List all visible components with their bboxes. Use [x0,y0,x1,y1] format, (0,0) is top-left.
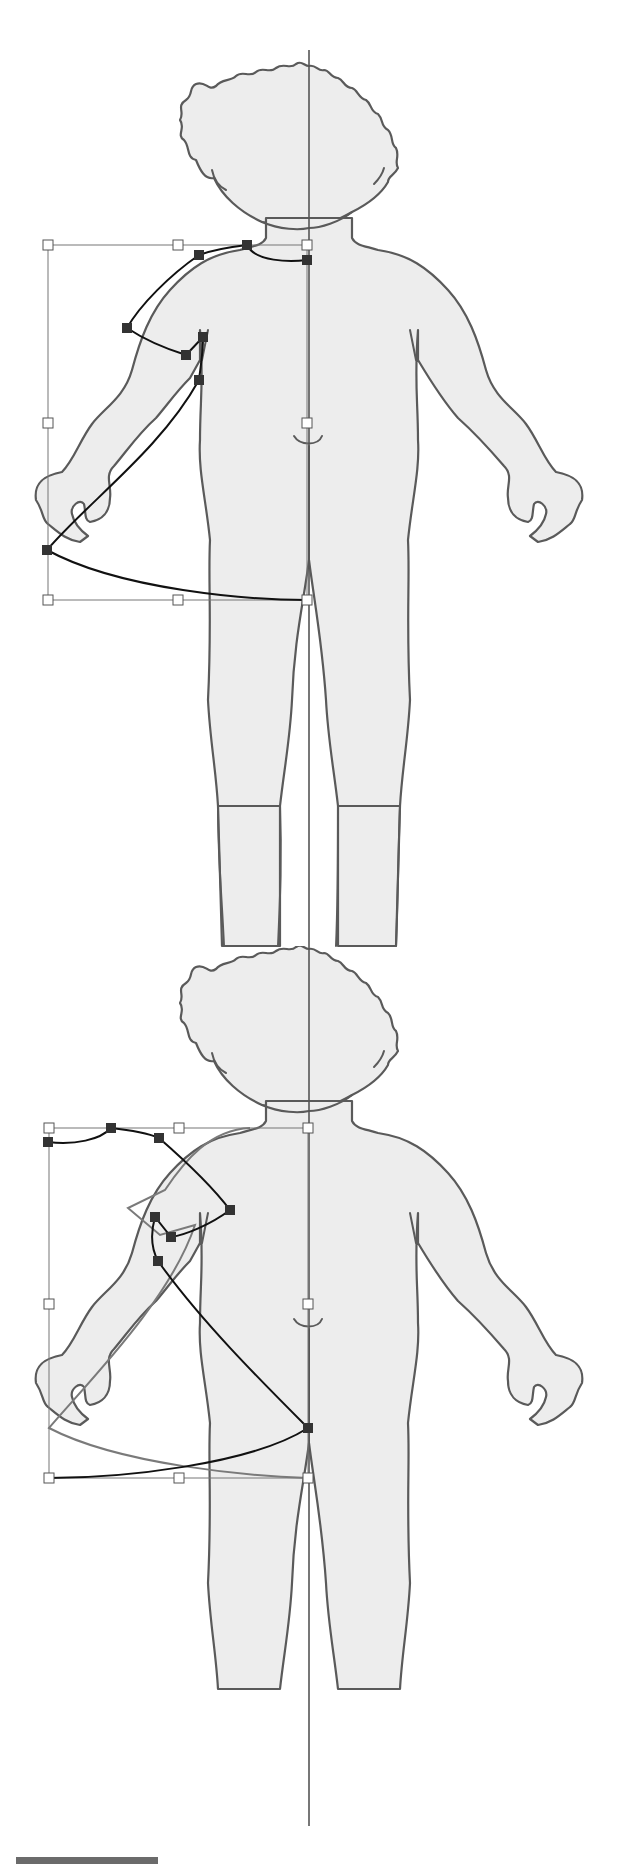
anchor-point[interactable] [153,1256,163,1266]
resize-handle[interactable] [302,240,312,250]
resize-handle[interactable] [174,1473,184,1483]
anchor-point[interactable] [42,545,52,555]
anchor-point[interactable] [150,1212,160,1222]
resize-handle[interactable] [44,1299,54,1309]
resize-handle[interactable] [173,595,183,605]
anchor-point[interactable] [194,250,204,260]
resize-handle[interactable] [303,1299,313,1309]
resize-handle[interactable] [43,418,53,428]
resize-handle[interactable] [44,1473,54,1483]
anchor-point[interactable] [43,1137,53,1147]
resize-handle[interactable] [44,1123,54,1133]
anchor-point[interactable] [166,1232,176,1242]
resize-handle[interactable] [173,240,183,250]
resize-handle[interactable] [302,595,312,605]
anchor-point[interactable] [242,240,252,250]
anchor-point[interactable] [225,1205,235,1215]
resize-handle[interactable] [174,1123,184,1133]
resize-handle[interactable] [43,595,53,605]
anchor-point[interactable] [302,255,312,265]
anchor-point[interactable] [122,323,132,333]
footer-bar [16,1857,158,1864]
anchor-point[interactable] [154,1133,164,1143]
anchor-point[interactable] [303,1423,313,1433]
anchor-point[interactable] [194,375,204,385]
anchor-point[interactable] [198,332,208,342]
resize-handle[interactable] [303,1473,313,1483]
panel-gap [0,806,628,946]
anchor-point[interactable] [181,350,191,360]
anchor-point[interactable] [106,1123,116,1133]
resize-handle[interactable] [302,418,312,428]
resize-handle[interactable] [43,240,53,250]
resize-handle[interactable] [303,1123,313,1133]
illustration-canvas [0,0,628,1864]
